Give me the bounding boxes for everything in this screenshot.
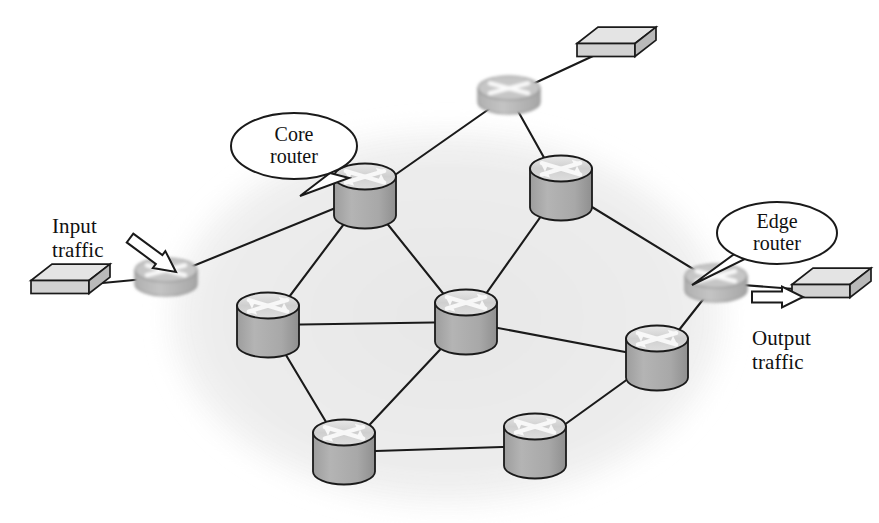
core-router-node[interactable]	[435, 290, 497, 355]
core-router-node[interactable]	[237, 293, 299, 358]
core-router-node[interactable]	[530, 156, 592, 221]
core-router-node[interactable]	[504, 414, 566, 479]
host-box-node[interactable]	[577, 27, 656, 56]
diagram-canvas	[0, 0, 879, 523]
output-traffic-label: Output traffic	[752, 327, 811, 374]
core-router-node[interactable]	[313, 420, 375, 485]
host-box-node[interactable]	[792, 268, 871, 297]
input-traffic-label: Input traffic	[52, 215, 104, 262]
edge-router-callout-label: Edge router	[717, 210, 837, 254]
network-topology-figure: Input traffic Output traffic Core router…	[0, 0, 879, 523]
core-router-node[interactable]	[334, 164, 396, 229]
host-box-node[interactable]	[31, 264, 110, 293]
edge-router-node[interactable]	[478, 76, 540, 114]
core-router-callout-label: Core router	[231, 123, 357, 167]
core-router-node[interactable]	[626, 326, 688, 391]
